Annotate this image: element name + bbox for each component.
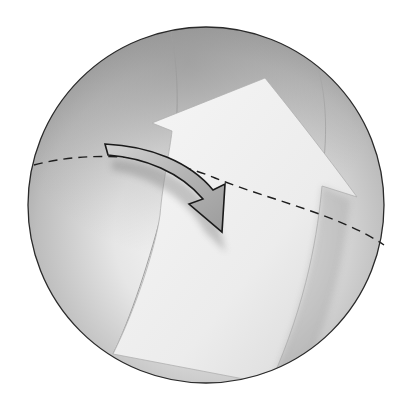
diagram-canvas [0, 0, 416, 408]
sphere-diagram [0, 0, 416, 408]
